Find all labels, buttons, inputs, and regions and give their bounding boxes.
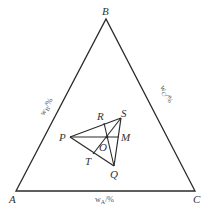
point-label-t: T: [85, 155, 92, 167]
vertex-label-b: B: [102, 5, 109, 17]
point-label-q: Q: [110, 168, 118, 180]
axis-label-bottom: wA/%: [95, 195, 114, 205]
point-label-p: P: [58, 131, 66, 143]
point-label-m: M: [120, 131, 131, 143]
svg-text:wC/%: wC/%: [157, 84, 175, 105]
axis-bottom-unit: /%: [105, 195, 114, 204]
segment-pq: [70, 137, 114, 166]
ternary-diagram: B A C P S R M O T Q wB/% wC/% wA/%: [0, 0, 212, 218]
axis-left-unit: /%: [42, 96, 54, 108]
axis-label-left: wB/%: [38, 96, 56, 117]
svg-text:wA/%: wA/%: [95, 195, 114, 205]
point-o-marker: [106, 136, 109, 139]
vertex-label-c: C: [193, 193, 201, 205]
point-label-s: S: [121, 107, 127, 119]
point-label-r: R: [96, 110, 104, 122]
axis-label-right: wC/%: [157, 84, 175, 105]
vertex-label-a: A: [8, 193, 16, 205]
point-label-o: O: [99, 141, 107, 153]
svg-text:wB/%: wB/%: [38, 96, 56, 117]
